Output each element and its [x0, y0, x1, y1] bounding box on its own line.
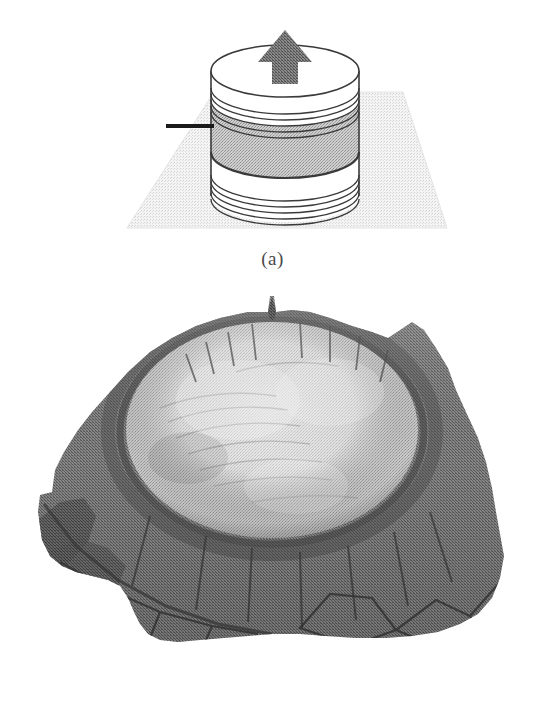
panel-b-surface-render [0, 290, 545, 708]
rim-notch-spike [268, 296, 276, 320]
panel-a: (a) [0, 0, 545, 290]
panel-b: (b) [0, 290, 545, 708]
panel-a-caption: (a) [0, 248, 545, 270]
panel-a-diagram [0, 0, 545, 290]
terrain-surface [0, 290, 545, 708]
figure-root: (a) [0, 0, 545, 708]
